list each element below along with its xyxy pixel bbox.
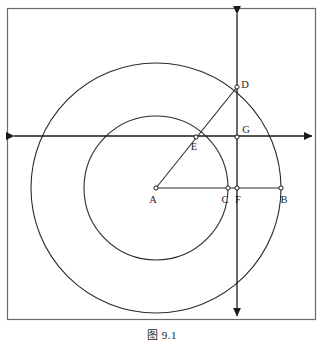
- figure-caption: 图 9.1: [0, 326, 324, 342]
- point-label-F: F: [235, 194, 241, 205]
- point-label-C: C: [221, 194, 228, 205]
- figure-frame: [8, 9, 316, 320]
- point-labels: A C F B E G D: [149, 79, 287, 205]
- point-label-E: E: [191, 141, 197, 152]
- point-marker-F: [235, 186, 239, 190]
- point-label-G: G: [242, 124, 250, 135]
- point-markers: [154, 85, 283, 190]
- point-marker-C: [226, 186, 230, 190]
- point-label-B: B: [280, 194, 287, 205]
- point-marker-E: [194, 135, 198, 139]
- point-marker-B: [279, 186, 283, 190]
- point-label-D: D: [241, 79, 249, 90]
- point-marker-D: [235, 85, 239, 89]
- geometry-figure: A C F B E G D 图 9.1: [0, 0, 324, 349]
- point-label-A: A: [149, 194, 157, 205]
- point-marker-G: [235, 135, 239, 139]
- point-marker-A: [154, 186, 158, 190]
- geometry-canvas: A C F B E G D: [0, 0, 324, 349]
